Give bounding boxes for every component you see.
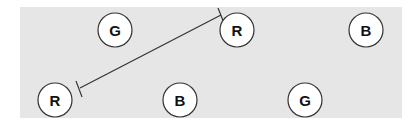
node-label: R <box>232 22 243 39</box>
node-r-bottom: R <box>38 83 72 117</box>
node-label: R <box>50 92 61 109</box>
node-r-top: R <box>220 13 254 47</box>
diagram-canvas: G R B R B G <box>0 0 419 124</box>
node-label: G <box>109 22 121 39</box>
node-label: B <box>361 22 372 39</box>
background-panel <box>20 7 402 118</box>
node-b-bottom: B <box>163 83 197 117</box>
node-label: G <box>299 92 311 109</box>
node-label: B <box>175 92 186 109</box>
node-g-top: G <box>98 13 132 47</box>
node-b-top: B <box>349 13 383 47</box>
node-g-bottom: G <box>288 83 322 117</box>
